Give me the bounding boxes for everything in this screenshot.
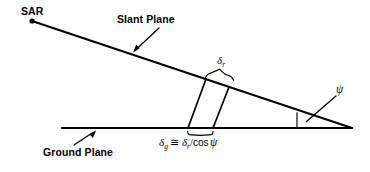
sar-label: SAR [21, 6, 43, 17]
delta-g-subscript: g [164, 142, 168, 151]
slant-plane-arrow-shaft [137, 28, 160, 49]
ground-plane-arrow-shaft [74, 133, 93, 145]
delta-r-subscript: r [222, 60, 225, 69]
ground-plane-label: Ground Plane [43, 147, 113, 158]
sar-point-marker [29, 18, 34, 23]
delta-r-brace [206, 69, 234, 80]
approx-equal-glyph: ≅ [168, 136, 182, 148]
delta-r-label: δr [217, 55, 225, 66]
psi-angle-label: ψ [336, 84, 343, 96]
formula-psi-glyph: ψ [209, 136, 218, 148]
formula-delta-r-subscript: r [187, 142, 190, 151]
ground-resolution-formula: δg≅δr/cosψ [159, 137, 217, 149]
slant-plane-line [32, 21, 352, 128]
slant-plane-label: Slant Plane [117, 14, 175, 25]
delta-g-brace [188, 131, 214, 135]
resolution-cell-right-edge [213, 87, 229, 128]
cosine-glyph: cos [193, 137, 209, 148]
sar-geometry-diagram: SAR Slant Plane Ground Plane δr δg≅δr/co… [0, 0, 370, 172]
slant-plane-arrow-head [133, 45, 139, 53]
ground-plane-arrow-head [90, 130, 97, 138]
resolution-cell-left-edge [188, 79, 206, 128]
